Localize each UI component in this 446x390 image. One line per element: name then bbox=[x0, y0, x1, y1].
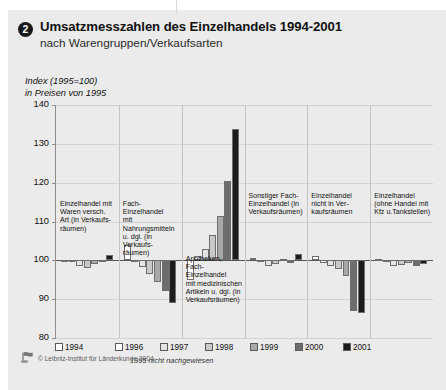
bar-1997 bbox=[265, 260, 272, 265]
y-tickmark-80 bbox=[52, 338, 56, 339]
y-axis-label-140: 140 bbox=[27, 99, 49, 109]
bar-1996 bbox=[320, 260, 327, 262]
bar-1999 bbox=[217, 216, 224, 261]
legend-swatch-1996 bbox=[115, 343, 123, 351]
bar-1994 bbox=[250, 258, 257, 260]
header: 2 Umsatzmesszahlen des Einzelhandels 199… bbox=[0, 18, 446, 64]
bar-2000 bbox=[287, 260, 294, 262]
bar-2000 bbox=[350, 260, 357, 310]
top-margin bbox=[0, 0, 446, 10]
legend-swatch-1999 bbox=[250, 343, 258, 351]
category-label: Sonstiger Fach- Einzelhandel (in Verkauf… bbox=[249, 192, 306, 217]
figure-number-badge: 2 bbox=[18, 22, 33, 37]
bar-1999 bbox=[405, 260, 412, 262]
bar-group: Sonstiger Fach- Einzelhandel (in Verkauf… bbox=[245, 105, 308, 338]
legend-label-1997: 1997 bbox=[170, 343, 188, 352]
legend-swatch-1998 bbox=[205, 343, 213, 351]
copyright-text: © Leibniz-Institut für Länderkunde 2004 bbox=[38, 355, 154, 362]
bar-1997 bbox=[390, 260, 397, 265]
legend-swatch-2001 bbox=[343, 343, 351, 351]
bar-2000 bbox=[224, 181, 231, 261]
bar-1997 bbox=[139, 260, 146, 267]
bar-1997 bbox=[76, 260, 83, 265]
gridline-80 bbox=[56, 338, 433, 339]
category-label: Apotheken, Fach-Einzelhandel mit medizin… bbox=[186, 255, 243, 304]
legend-label-2000: 2000 bbox=[305, 343, 323, 352]
bar-1996 bbox=[69, 260, 76, 262]
legend-label-1994: 1994 bbox=[65, 343, 83, 352]
bar-1999 bbox=[280, 259, 287, 261]
legend-item-1999[interactable]: 1999 bbox=[250, 343, 278, 354]
y-axis-caption-line1: Index (1995=100) bbox=[25, 76, 106, 88]
bar-1999 bbox=[343, 260, 350, 276]
bar-1996 bbox=[257, 260, 264, 262]
category-label: Fach-Einzelhandel mit Nahrungsmitteln u.… bbox=[123, 200, 180, 257]
chart-plot-area: 8090100110120130140Einzelhandel mit Ware… bbox=[55, 105, 432, 338]
bar-2000 bbox=[99, 260, 106, 262]
legend-swatch-1994 bbox=[55, 343, 63, 351]
y-axis-label-120: 120 bbox=[27, 177, 49, 187]
y-axis-label-80: 80 bbox=[27, 332, 49, 342]
legend-label-1996: 1996 bbox=[125, 343, 143, 352]
bar-2001 bbox=[295, 254, 302, 260]
legend-label-2001: 2001 bbox=[353, 343, 371, 352]
bar-2000 bbox=[162, 260, 169, 291]
bar-2001 bbox=[420, 260, 427, 264]
legend-item-2001[interactable]: 2001 bbox=[343, 343, 371, 354]
y-axis-label-130: 130 bbox=[27, 138, 49, 148]
bar-1996 bbox=[131, 260, 138, 262]
bar-1994 bbox=[61, 260, 68, 262]
bar-2001 bbox=[232, 129, 239, 260]
y-axis-caption: Index (1995=100) in Preisen von 1995 bbox=[25, 76, 106, 99]
y-axis-label-100: 100 bbox=[27, 254, 49, 264]
bar-1994 bbox=[312, 256, 319, 260]
bar-1999 bbox=[91, 260, 98, 264]
legend-item-1996[interactable]: 1996 bbox=[115, 343, 143, 354]
bar-1998 bbox=[398, 260, 405, 265]
bar-2001 bbox=[106, 255, 113, 260]
legend-swatch-1997 bbox=[160, 343, 168, 351]
category-label: Einzelhandel mit Waren versch. Art (in V… bbox=[60, 200, 117, 233]
bar-2000 bbox=[413, 260, 420, 265]
bar-1994 bbox=[375, 259, 382, 261]
bar-1998 bbox=[146, 260, 153, 274]
legend-item-2000[interactable]: 2000 bbox=[295, 343, 323, 354]
institute-logo-icon bbox=[20, 350, 35, 364]
bar-2001 bbox=[358, 260, 365, 312]
legend-label-1999: 1999 bbox=[260, 343, 278, 352]
y-axis-caption-line2: in Preisen von 1995 bbox=[25, 88, 106, 100]
legend-item-1998[interactable]: 1998 bbox=[205, 343, 233, 354]
bar-1997 bbox=[327, 260, 334, 265]
bar-1998 bbox=[335, 260, 342, 269]
bar-2001 bbox=[169, 260, 176, 303]
bar-group: Einzelhandel mit Waren versch. Art (in V… bbox=[56, 105, 119, 338]
infographic-page: 2 Umsatzmesszahlen des Einzelhandels 199… bbox=[0, 0, 446, 390]
header-divider bbox=[176, 0, 177, 14]
legend-item-1994[interactable]: 1994 bbox=[55, 343, 83, 354]
category-label: Einzelhandel nicht in Ver- kaufsräumen bbox=[311, 192, 368, 217]
legend-label-1998: 1998 bbox=[215, 343, 233, 352]
y-axis-label-110: 110 bbox=[27, 216, 49, 226]
legend-swatch-2000 bbox=[295, 343, 303, 351]
bar-1999 bbox=[154, 260, 161, 281]
bar-1998 bbox=[84, 260, 91, 268]
bar-group: Einzelhandel (ohne Handel mit Kfz u.Tank… bbox=[370, 105, 433, 338]
category-label: Einzelhandel (ohne Handel mit Kfz u.Tank… bbox=[374, 192, 431, 217]
bar-group: Apotheken, Fach-Einzelhandel mit medizin… bbox=[182, 105, 245, 338]
legend-item-1997[interactable]: 1997 bbox=[160, 343, 188, 354]
bar-group: Fach-Einzelhandel mit Nahrungsmitteln u.… bbox=[119, 105, 182, 338]
bar-group: Einzelhandel nicht in Ver- kaufsräumen bbox=[307, 105, 370, 338]
bar-1998 bbox=[272, 260, 279, 264]
y-axis-label-90: 90 bbox=[27, 293, 49, 303]
page-subtitle: nach Warengruppen/Verkaufsarten bbox=[40, 36, 223, 50]
bar-1996 bbox=[383, 260, 390, 262]
page-title: Umsatzmesszahlen des Einzelhandels 1994-… bbox=[40, 19, 342, 34]
